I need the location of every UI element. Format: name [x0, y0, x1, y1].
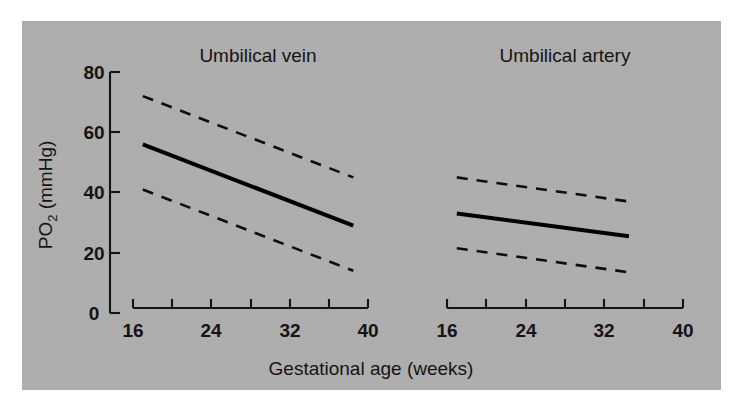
y-axis-group: 80 60 40 20 0 — [83, 62, 120, 324]
chart-svg: 80 60 40 20 0 PO2 (mmHg) Umbilical vein … — [0, 0, 741, 407]
y-ticklabel-80: 80 — [83, 62, 104, 83]
y-ticklabel-60: 60 — [83, 122, 104, 143]
artery-upper-limit-line — [457, 177, 629, 201]
x-ticklabel-left-16: 16 — [122, 320, 143, 341]
vein-lower-limit-line — [143, 190, 353, 271]
y-axis-title-subscript: 2 — [45, 215, 60, 222]
x-ticklabel-right-24: 24 — [515, 320, 537, 341]
x-ticklabel-left-40: 40 — [357, 320, 378, 341]
y-axis-title-unit: (mmHg) — [35, 141, 56, 215]
y-axis-title-group: PO2 (mmHg) — [35, 141, 60, 250]
vein-upper-limit-line — [143, 96, 353, 177]
artery-median-line — [457, 214, 629, 237]
x-ticklabel-right-40: 40 — [672, 320, 693, 341]
vein-median-line — [143, 144, 353, 225]
y-ticklabel-0: 0 — [89, 303, 100, 324]
panel-title-umbilical-artery: Umbilical artery — [500, 45, 631, 66]
x-ticklabel-left-24: 24 — [200, 320, 222, 341]
y-axis-title: PO2 (mmHg) — [35, 141, 60, 250]
y-ticklabel-40: 40 — [83, 182, 104, 203]
artery-lower-limit-line — [457, 248, 629, 272]
panel-umbilical-vein: Umbilical vein 16 24 32 40 — [122, 45, 378, 341]
x-ticklabel-right-32: 32 — [593, 320, 614, 341]
x-ticklabel-left-32: 32 — [279, 320, 300, 341]
y-ticklabel-20: 20 — [83, 243, 104, 264]
panel-umbilical-artery: Umbilical artery 16 24 32 40 — [436, 45, 693, 341]
panel-title-umbilical-vein: Umbilical vein — [199, 45, 316, 66]
y-axis-title-po: PO — [35, 222, 56, 249]
x-ticklabel-right-16: 16 — [436, 320, 457, 341]
x-axis-title: Gestational age (weeks) — [269, 358, 474, 379]
figure-root: 80 60 40 20 0 PO2 (mmHg) Umbilical vein … — [0, 0, 741, 407]
